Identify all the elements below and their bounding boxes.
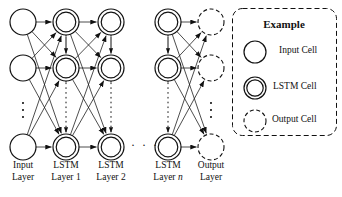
layer-label-input-line1: Input [13,160,33,170]
layer-label-output: Output Layer [188,160,234,183]
legend-icon-output-cell [244,110,266,132]
connection-edge [32,31,56,57]
connection-edge [29,79,59,134]
layer-ellipsis-horizontal: · · · [131,138,159,153]
layer-label-lstm1-line2: Layer 1 [43,172,89,184]
vertical-ellipsis-dot [210,102,212,104]
legend-label-output-cell: Output Cell [272,114,317,124]
edges-lstm1-to-lstm2 [70,22,106,147]
legend-icon-lstm-cell [244,77,266,99]
connection-edge [75,31,101,57]
node-lstmn-1 [155,9,181,35]
connection-edge [29,81,59,136]
connection-edge [177,31,201,57]
node-input-3 [10,134,36,160]
layer-label-input-line2: Layer [0,172,46,184]
connection-edge [174,81,204,136]
figure-root: Input Layer LSTM Layer 1 LSTM Layer 2 LS… [0,0,342,197]
connection-edge [177,33,201,59]
node-output-2 [198,55,224,81]
connection-edge [27,34,61,133]
legend-icon-input-cell [244,41,266,63]
connection-edge [70,34,106,133]
connection-edge [72,79,103,134]
layer-label-lstm2-line2: Layer 2 [88,172,134,184]
node-lstm2-1 [98,9,124,35]
node-input-1 [10,9,36,35]
vertical-ellipsis-dot [22,102,24,104]
layer-label-lstm1: LSTM Layer 1 [43,160,89,183]
node-lstm1-3 [53,134,79,160]
layer-label-lstmn-line1: LSTM [155,160,180,170]
layer-label-lstm2: LSTM Layer 2 [88,160,134,183]
layer-label-lstmn: LSTM Layer n [145,160,191,183]
edges-lstmn-to-output [172,22,206,147]
vertical-ellipsis-dot [210,109,212,111]
layer-index-n: n [178,172,183,182]
layer-label-lstmn-line2: Layer n [145,172,191,184]
node-output-1 [198,9,224,35]
node-lstmn-2 [155,55,181,81]
connection-edge [174,79,204,134]
layer-label-output-line1: Output [198,160,224,170]
connection-edge [172,34,206,133]
vertical-ellipsis-dot [210,116,212,118]
vertical-ellipsis-dot [22,109,24,111]
layer-label-lstm2-line1: LSTM [98,160,123,170]
legend-label-input-cell: Input Cell [279,45,317,55]
connection-edge [72,81,103,136]
connection-edge [75,32,101,58]
legend-label-lstm-cell: LSTM Cell [273,81,317,91]
network-nodes [10,9,224,160]
node-input-2 [10,55,36,81]
vertical-ellipsis-dot [22,116,24,118]
row-ellipsis-marks [22,102,212,118]
node-lstm1-2 [53,55,79,81]
legend-title: Example [232,18,336,30]
edges-recurrent-vertical [66,37,168,133]
node-lstm2-3 [98,134,124,160]
layer-label-lstm1-line1: LSTM [53,160,78,170]
node-lstm2-2 [98,55,124,81]
layer-label-input: Input Layer [0,160,46,183]
connection-edge [32,33,56,59]
edges-input-to-lstm1 [27,22,61,147]
layer-label-output-line2: Layer [188,172,234,184]
legend-icons [244,41,266,132]
node-output-3 [198,134,224,160]
node-lstm1-1 [53,9,79,35]
